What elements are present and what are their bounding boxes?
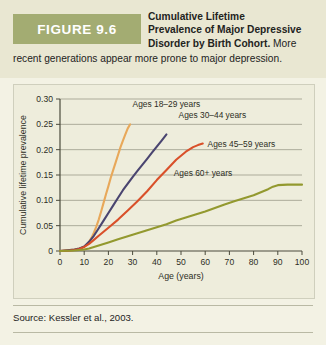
x-axis-tick-label: 100 xyxy=(295,257,310,267)
series-label-ages-45-59-years: Ages 45–59 years xyxy=(208,139,276,149)
x-axis-tick-label: 80 xyxy=(249,257,259,267)
figure-title-line3: Disorder by Birth Cohort. xyxy=(148,38,270,49)
series-label-ages-18-29-years: Ages 18–29 years xyxy=(133,99,201,109)
y-axis-tick-label: 0.25 xyxy=(36,119,53,129)
figure-title-line2: Prevalence of Major Depressive xyxy=(148,24,301,35)
y-axis-tick-label: 0.30 xyxy=(36,94,53,104)
figure-number-label: FIGURE 9.6 xyxy=(37,22,117,37)
y-axis-tick-label: 0 xyxy=(48,246,53,256)
series-line-ages-30-44-years xyxy=(60,134,166,251)
series-line-ages-60-years xyxy=(60,185,302,251)
x-axis-tick-label: 40 xyxy=(152,257,162,267)
line-chart: 00.050.100.150.200.250.30010203040506070… xyxy=(14,85,312,296)
divider-bottom xyxy=(13,332,313,333)
y-axis-title: Cumulative lifetime prevalence xyxy=(18,115,28,235)
x-axis-tick-label: 20 xyxy=(104,257,114,267)
chart-card: 00.050.100.150.200.250.30010203040506070… xyxy=(13,84,315,299)
figure-page: FIGURE 9.6 Cumulative Lifetime Prevalenc… xyxy=(0,0,326,345)
x-axis-title: Age (years) xyxy=(158,271,204,281)
divider-top xyxy=(13,305,313,306)
series-label-ages-60-years: Ages 60+ years xyxy=(174,168,232,178)
source-note: Source: Kessler et al., 2003. xyxy=(13,312,134,323)
y-axis-tick-label: 0.20 xyxy=(36,145,53,155)
y-axis-tick-label: 0.15 xyxy=(36,170,53,180)
x-axis-tick-label: 70 xyxy=(225,257,235,267)
x-axis-tick-label: 10 xyxy=(79,257,89,267)
figure-number-badge: FIGURE 9.6 xyxy=(13,14,141,44)
series-label-ages-30-44-years: Ages 30–44 years xyxy=(179,110,247,120)
x-axis-tick-label: 0 xyxy=(58,257,63,267)
y-axis-tick-label: 0.05 xyxy=(36,221,53,231)
figure-title-tail: More xyxy=(273,38,296,49)
figure-title: Cumulative Lifetime Prevalence of Major … xyxy=(148,10,320,50)
y-axis-tick-label: 0.10 xyxy=(36,195,53,205)
x-axis-tick-label: 60 xyxy=(200,257,210,267)
x-axis-tick-label: 50 xyxy=(176,257,186,267)
figure-title-line1: Cumulative Lifetime xyxy=(148,11,245,22)
x-axis-tick-label: 90 xyxy=(273,257,283,267)
figure-header: FIGURE 9.6 Cumulative Lifetime Prevalenc… xyxy=(0,0,326,78)
figure-caption-rest: recent generations appear more prone to … xyxy=(13,52,318,65)
x-axis-tick-label: 30 xyxy=(128,257,138,267)
